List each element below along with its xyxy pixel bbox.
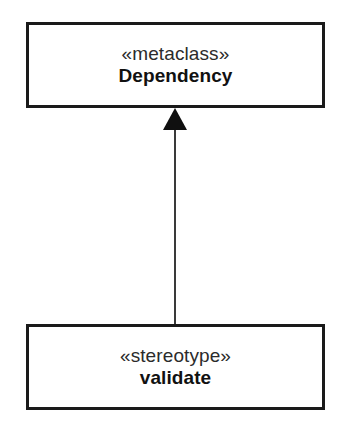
uml-class-box-stereotype-validate[interactable]: «stereotype» validate: [26, 324, 325, 410]
filled-triangle-arrowhead-icon: [162, 107, 188, 131]
class-name-dependency: Dependency: [119, 65, 233, 87]
uml-diagram-canvas: «metaclass» Dependency «stereotype» vali…: [0, 0, 343, 439]
uml-class-box-metaclass-dependency[interactable]: «metaclass» Dependency: [26, 22, 325, 108]
stereotype-keyword-metaclass: «metaclass»: [122, 43, 230, 64]
generalization-connector-line: [174, 128, 176, 326]
class-name-validate: validate: [140, 367, 212, 389]
stereotype-keyword-stereotype: «stereotype»: [120, 345, 231, 366]
